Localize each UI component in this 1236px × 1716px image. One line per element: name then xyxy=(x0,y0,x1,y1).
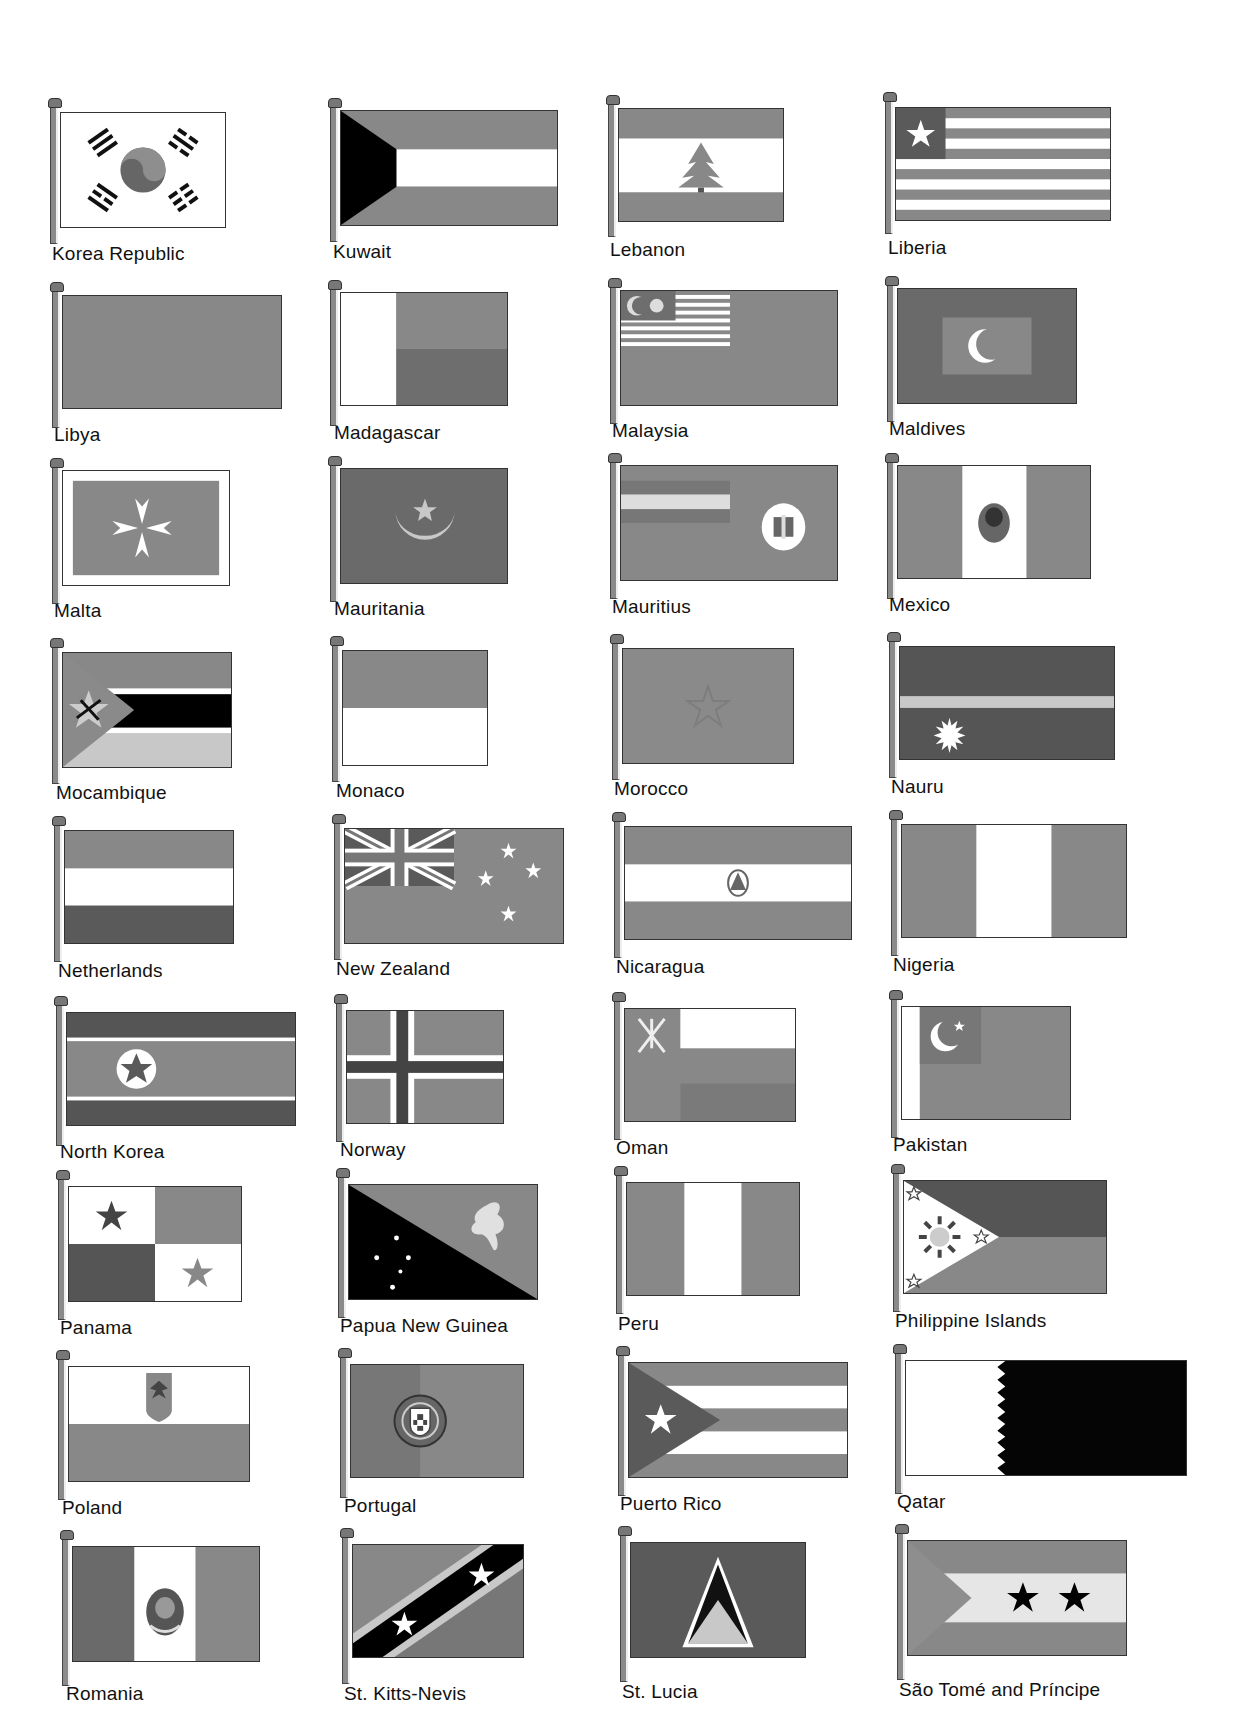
flagpole-icon xyxy=(889,638,897,778)
flagpole-icon xyxy=(330,462,338,602)
flag-monaco xyxy=(342,650,488,766)
flagpole-icon xyxy=(616,1172,624,1314)
madagascar-flag-icon xyxy=(341,293,507,405)
flagpole-icon xyxy=(612,640,620,780)
portugal-flag-icon xyxy=(351,1365,523,1477)
flag-madagascar xyxy=(340,292,508,406)
country-label: Malta xyxy=(54,600,101,622)
country-label: Norway xyxy=(340,1139,406,1161)
flag-korea-republic xyxy=(60,112,226,228)
flag-poland xyxy=(68,1366,250,1482)
north-korea-flag-icon xyxy=(67,1013,295,1125)
flag-lebanon xyxy=(618,108,784,222)
flagpole-icon xyxy=(54,822,62,962)
maldives-flag-icon xyxy=(898,289,1076,403)
flag-nauru xyxy=(899,646,1115,760)
country-label: Kuwait xyxy=(333,241,391,263)
country-label: Panama xyxy=(60,1317,132,1339)
flag-nigeria xyxy=(901,824,1127,938)
flag-romania xyxy=(72,1546,260,1662)
country-label: Lebanon xyxy=(610,239,685,261)
flag-norway xyxy=(346,1010,504,1124)
flagpole-icon xyxy=(885,98,893,234)
flagpole-icon xyxy=(887,459,895,599)
country-label: Nicaragua xyxy=(616,956,704,978)
country-label: Romania xyxy=(66,1683,143,1705)
country-label: Papua New Guinea xyxy=(340,1315,508,1337)
country-label: Oman xyxy=(616,1137,669,1159)
country-label: Libya xyxy=(54,424,100,446)
oman-flag-icon xyxy=(625,1009,795,1121)
romania-flag-icon xyxy=(73,1547,259,1661)
flagpole-icon xyxy=(334,820,342,960)
country-label: Puerto Rico xyxy=(620,1493,721,1515)
country-label: Mauritania xyxy=(334,598,425,620)
flagpole-icon xyxy=(618,1352,626,1496)
flag-malaysia xyxy=(620,290,838,406)
flagpole-icon xyxy=(897,1530,905,1680)
flagpole-icon xyxy=(338,1174,346,1318)
flagpole-icon xyxy=(56,1002,64,1146)
flagpole-icon xyxy=(330,286,338,426)
flagpole-icon xyxy=(336,1000,344,1142)
flag-maldives xyxy=(897,288,1077,404)
flagpole-icon xyxy=(52,464,60,604)
flagpole-icon xyxy=(332,642,340,782)
malaysia-flag-icon xyxy=(621,291,837,405)
norway-flag-icon xyxy=(347,1011,503,1123)
new-zealand-flag-icon xyxy=(345,829,563,943)
sao-tome-and-principe-flag-icon xyxy=(908,1541,1126,1655)
poland-flag-icon xyxy=(69,1367,249,1481)
country-label: Monaco xyxy=(336,780,405,802)
country-label: Madagascar xyxy=(334,422,441,444)
flag-kuwait xyxy=(340,110,558,226)
nauru-flag-icon xyxy=(900,647,1114,759)
flag-liberia xyxy=(895,107,1111,221)
korea-flag-icon xyxy=(61,113,225,227)
flag-malta xyxy=(62,470,230,586)
lebanon-flag-icon xyxy=(619,109,783,221)
panama-flag-icon xyxy=(69,1187,241,1301)
flagpole-icon xyxy=(50,104,58,244)
country-label: St. Lucia xyxy=(622,1681,698,1703)
country-label: Mexico xyxy=(889,594,950,616)
country-label: Nigeria xyxy=(893,954,955,976)
malta-flag-icon xyxy=(63,471,229,585)
country-label: New Zealand xyxy=(336,958,450,980)
country-label: Nauru xyxy=(891,776,944,798)
flagpole-icon xyxy=(52,644,60,784)
country-label: Qatar xyxy=(897,1491,946,1513)
flagpole-icon xyxy=(895,1350,903,1494)
qatar-flag-icon xyxy=(906,1361,1186,1475)
kuwait-flag-icon xyxy=(341,111,557,225)
flag-philippine-islands xyxy=(903,1180,1107,1294)
flagpole-icon xyxy=(610,459,618,599)
country-label: Mauritius xyxy=(612,596,691,618)
country-label: Morocco xyxy=(614,778,688,800)
flag-netherlands xyxy=(64,830,234,944)
mocambique-flag-icon xyxy=(63,653,231,767)
country-label: Portugal xyxy=(344,1495,416,1517)
flag-nicaragua xyxy=(624,826,852,940)
flag-papua-new-guinea xyxy=(348,1184,538,1300)
flagpole-icon xyxy=(58,1356,66,1500)
flag-st-kitts-nevis xyxy=(352,1544,524,1658)
flagpole-icon xyxy=(893,1170,901,1312)
mexico-flag-icon xyxy=(898,466,1090,578)
flagpole-icon xyxy=(52,288,60,428)
pakistan-flag-icon xyxy=(902,1007,1070,1119)
monaco-flag-icon xyxy=(343,651,487,765)
flag-oman xyxy=(624,1008,796,1122)
nigeria-flag-icon xyxy=(902,825,1126,937)
netherlands-flag-icon xyxy=(65,831,233,943)
country-label: North Korea xyxy=(60,1141,165,1163)
flag-mocambique xyxy=(62,652,232,768)
flag-panama xyxy=(68,1186,242,1302)
flagpole-icon xyxy=(330,104,338,242)
flag-mauritania xyxy=(340,468,508,584)
flag-peru xyxy=(626,1182,800,1296)
flag-morocco xyxy=(622,648,794,764)
country-label: Mocambique xyxy=(56,782,167,804)
st-kitts-nevis-flag-icon xyxy=(353,1545,523,1657)
puerto-rico-flag-icon xyxy=(629,1363,847,1477)
